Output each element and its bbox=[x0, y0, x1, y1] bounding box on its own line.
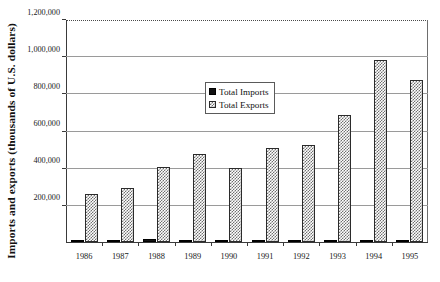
x-axis-tick-label: 1990 bbox=[221, 252, 238, 261]
x-axis-tick-label: 1989 bbox=[184, 252, 201, 261]
x-axis-tick-label: 1995 bbox=[402, 252, 419, 261]
bar-exports-1989 bbox=[193, 154, 206, 242]
y-axis-tick bbox=[62, 93, 66, 94]
legend-swatch-exports-icon bbox=[209, 101, 216, 108]
bar-imports-1990 bbox=[215, 240, 228, 242]
legend-label-exports: Total Exports bbox=[219, 100, 269, 110]
y-axis-tick-label: 600,000 bbox=[33, 119, 60, 128]
bar-chart: Imports and exports (thousands of U.S. d… bbox=[0, 0, 440, 282]
x-axis-tick-label: 1988 bbox=[148, 252, 165, 261]
bar-imports-1987 bbox=[107, 240, 120, 242]
y-axis-tick bbox=[62, 19, 66, 20]
bar-imports-1993 bbox=[324, 240, 337, 242]
x-axis-tick-label: 1992 bbox=[293, 252, 310, 261]
bar-exports-1990 bbox=[229, 168, 242, 242]
bar-imports-1988 bbox=[143, 239, 156, 242]
bar-imports-1992 bbox=[288, 240, 301, 242]
x-axis-tick bbox=[102, 243, 103, 246]
y-axis-tick-label: 800,000 bbox=[33, 81, 60, 90]
x-axis-tick bbox=[211, 243, 212, 246]
y-axis-line bbox=[66, 20, 67, 243]
bar-exports-1993 bbox=[338, 115, 351, 242]
y-axis-tick-label: 1,000,000 bbox=[27, 44, 60, 53]
gridline bbox=[66, 56, 428, 57]
plot-right-border bbox=[427, 20, 428, 243]
bar-exports-1992 bbox=[302, 145, 315, 242]
bar-imports-1994 bbox=[360, 240, 373, 242]
y-axis-title: Imports and exports (thousands of U.S. d… bbox=[0, 0, 22, 282]
x-axis-tick-label: 1986 bbox=[76, 252, 93, 261]
x-axis-tick bbox=[319, 243, 320, 246]
x-axis-tick bbox=[356, 243, 357, 246]
y-axis-tick-label: 1,200,000 bbox=[27, 7, 60, 16]
bar-imports-1986 bbox=[71, 240, 84, 242]
y-axis-title-text: Imports and exports (thousands of U.S. d… bbox=[5, 23, 17, 259]
x-axis-tick-label: 1987 bbox=[112, 252, 129, 261]
legend-item-exports: Total Exports bbox=[209, 98, 269, 111]
bar-exports-1988 bbox=[157, 167, 170, 242]
x-axis-tick bbox=[283, 243, 284, 246]
bar-exports-1987 bbox=[121, 188, 134, 242]
y-axis-tick bbox=[62, 131, 66, 132]
plot-top-border bbox=[66, 20, 428, 21]
x-axis-tick-label: 1993 bbox=[329, 252, 346, 261]
y-axis-tick bbox=[62, 168, 66, 169]
legend-item-imports: Total Imports bbox=[209, 85, 269, 98]
y-axis-tick-label: 400,000 bbox=[33, 156, 60, 165]
y-axis-tick bbox=[62, 56, 66, 57]
bar-imports-1995 bbox=[396, 240, 409, 242]
y-axis-tick-label: 200,000 bbox=[33, 193, 60, 202]
bar-imports-1989 bbox=[179, 240, 192, 242]
plot-area: 200,000400,000600,000800,0001,000,0001,2… bbox=[66, 20, 428, 243]
bar-exports-1995 bbox=[410, 80, 423, 242]
x-axis-tick bbox=[392, 243, 393, 246]
chart-legend: Total Imports Total Exports bbox=[205, 82, 275, 114]
x-axis-tick bbox=[175, 243, 176, 246]
y-axis-tick bbox=[62, 205, 66, 206]
bar-imports-1991 bbox=[252, 240, 265, 242]
x-axis-tick bbox=[247, 243, 248, 246]
bar-exports-1991 bbox=[266, 148, 279, 242]
legend-label-imports: Total Imports bbox=[219, 87, 269, 97]
x-axis-tick-label: 1994 bbox=[365, 252, 382, 261]
x-axis-tick bbox=[138, 243, 139, 246]
x-axis-tick-label: 1991 bbox=[257, 252, 274, 261]
bar-exports-1994 bbox=[374, 60, 387, 242]
legend-swatch-imports-icon bbox=[209, 88, 216, 95]
plot-inner: 200,000400,000600,000800,0001,000,0001,2… bbox=[66, 20, 428, 243]
bar-exports-1986 bbox=[85, 194, 98, 242]
